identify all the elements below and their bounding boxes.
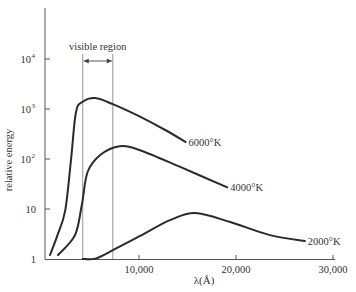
y-tick-exponent: 4 xyxy=(32,52,36,60)
x-tick-label: 30,000 xyxy=(319,264,348,275)
curve-label-6000k: 6000°K xyxy=(189,137,222,148)
x-axis-label: λ(Å) xyxy=(194,274,215,287)
curve-4000k xyxy=(58,146,227,255)
arrowhead-left-icon xyxy=(84,59,89,64)
curve-label-4000k: 4000°K xyxy=(230,182,263,193)
visible-region-label: visible region xyxy=(69,41,127,52)
curve-label-2000k: 2000°K xyxy=(308,236,341,247)
y-tick-label: 10 xyxy=(21,104,32,115)
curve-2000k xyxy=(83,213,305,259)
blackbody-radiation-chart: 10,00020,00030,000110102103104 visible r… xyxy=(0,0,356,292)
x-tick-label: 20,000 xyxy=(222,264,251,275)
y-axis-label: relative energy xyxy=(3,128,14,191)
curve-6000k xyxy=(50,98,186,255)
y-tick-label: 10 xyxy=(21,154,32,165)
curve-labels: 6000°K4000°K2000°K xyxy=(189,137,342,247)
y-tick-exponent: 2 xyxy=(32,152,36,160)
y-tick-label: 1 xyxy=(31,254,36,265)
y-tick-label: 10 xyxy=(26,204,37,215)
curves xyxy=(50,98,305,259)
arrowhead-right-icon xyxy=(107,59,112,64)
x-tick-label: 10,000 xyxy=(125,264,154,275)
y-tick-exponent: 3 xyxy=(32,102,36,110)
y-tick-label: 10 xyxy=(21,54,32,65)
